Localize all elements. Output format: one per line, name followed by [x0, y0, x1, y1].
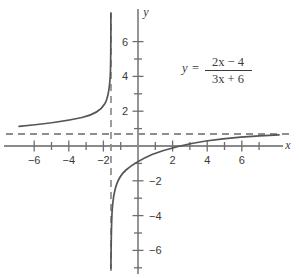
- figure-background: [0, 0, 299, 278]
- y-tick-label-neg2: −2: [149, 175, 162, 187]
- x-tick-label-neg6: −6: [28, 154, 41, 166]
- y-tick-label-4: 4: [122, 70, 128, 82]
- equation-lhs: y: [180, 61, 188, 75]
- equation-numerator: 2x − 4: [212, 55, 245, 69]
- y-axis-label: y: [142, 5, 149, 19]
- y-tick-label-2: 2: [122, 105, 128, 117]
- x-tick-label-2: 2: [170, 154, 176, 166]
- function-graph-figure: −6 −4 −2 2 4 6 6 4 2 −2 −4 −6 x y y = 2x…: [0, 0, 299, 278]
- y-tick-label-neg4: −4: [149, 210, 162, 222]
- x-tick-label-neg4: −4: [63, 154, 76, 166]
- equation-equals: =: [192, 61, 199, 75]
- y-tick-label-6: 6: [122, 36, 128, 48]
- x-tick-label-6: 6: [239, 154, 245, 166]
- y-tick-label-neg6: −6: [149, 244, 162, 256]
- x-tick-label-neg2: −2: [97, 154, 110, 166]
- x-tick-label-4: 4: [204, 154, 210, 166]
- equation-denominator: 3x + 6: [212, 72, 244, 86]
- x-axis-label: x: [284, 138, 291, 152]
